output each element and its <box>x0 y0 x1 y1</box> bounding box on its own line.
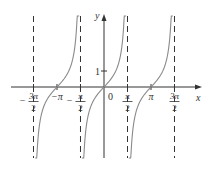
origin-label: 0 <box>108 91 113 102</box>
tan-graph: x y 0 1 3π2−−ππ2−π2π3π2 <box>0 0 207 170</box>
x-axis-label: x <box>195 92 201 103</box>
x-tick-label: π <box>148 91 154 102</box>
svg-text:2: 2 <box>172 103 177 113</box>
y-tick-label-1: 1 <box>95 66 100 77</box>
x-axis-arrow-icon <box>195 85 202 90</box>
svg-text:3π: 3π <box>28 91 39 101</box>
y-axis-arrow-icon <box>102 14 107 21</box>
x-tick-fraction: π2− <box>67 91 86 113</box>
svg-text:−: − <box>67 95 73 106</box>
x-tick-fraction: 3π2− <box>20 91 39 113</box>
y-axis-label: y <box>94 10 100 21</box>
svg-text:π: π <box>125 91 130 101</box>
svg-text:−: − <box>20 95 26 106</box>
svg-text:2: 2 <box>31 103 36 113</box>
svg-text:2: 2 <box>125 103 130 113</box>
svg-text:2: 2 <box>78 103 83 113</box>
x-tick-label: −π <box>51 91 64 102</box>
x-tick-labels: 3π2−−ππ2−π2π3π2 <box>20 91 180 113</box>
svg-text:π: π <box>78 91 83 101</box>
svg-text:3π: 3π <box>169 91 180 101</box>
